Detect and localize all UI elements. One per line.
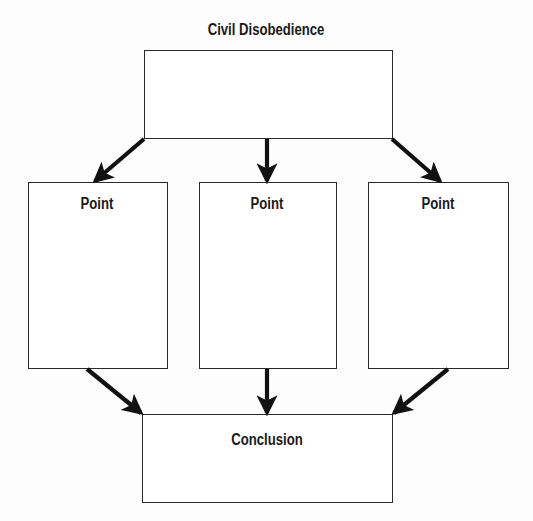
arrow-point-1-to-conclusion — [87, 369, 141, 413]
arrow-top-to-point-3 — [392, 139, 440, 181]
arrows-layer — [0, 0, 533, 521]
arrow-point-3-to-conclusion — [394, 369, 448, 413]
arrow-top-to-point-1 — [95, 139, 144, 181]
essay-organizer-diagram: Civil Disobedience Point Point Point Con… — [0, 0, 533, 521]
